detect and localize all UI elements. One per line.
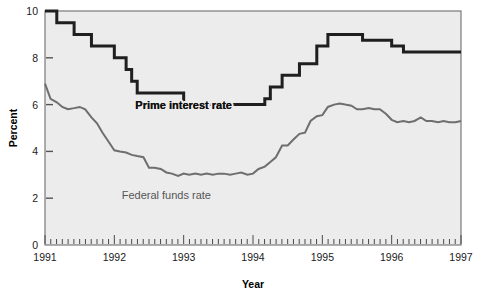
chart-canvas: 0246810 1991199219931994199519961997 Pri… — [0, 0, 477, 295]
x-tick-label: 1994 — [241, 251, 265, 263]
x-tick-label: 1993 — [172, 251, 196, 263]
x-axis-tick-labels: 1991199219931994199519961997 — [33, 251, 473, 263]
series-annotation-prime-interest-rate: Prime interest rate — [135, 99, 232, 111]
x-tick-label: 1996 — [380, 251, 404, 263]
x-tick-label: 1992 — [103, 251, 127, 263]
y-tick-label: 2 — [32, 192, 38, 204]
x-tick-label: 1997 — [449, 251, 473, 263]
interest-rate-chart: 0246810 1991199219931994199519961997 Pri… — [0, 0, 477, 295]
x-tick-label: 1991 — [33, 251, 57, 263]
y-tick-label: 4 — [32, 145, 38, 157]
y-tick-label: 6 — [32, 99, 38, 111]
x-axis-title: Year — [242, 278, 264, 290]
series-annotation-federal-funds-rate: Federal funds rate — [122, 189, 211, 201]
y-tick-label: 0 — [32, 239, 38, 251]
y-tick-label: 10 — [26, 5, 38, 17]
y-tick-label: 8 — [32, 52, 38, 64]
x-tick-label: 1995 — [311, 251, 335, 263]
y-axis-tick-labels: 0246810 — [26, 5, 38, 251]
y-axis-title: Percent — [7, 108, 19, 147]
